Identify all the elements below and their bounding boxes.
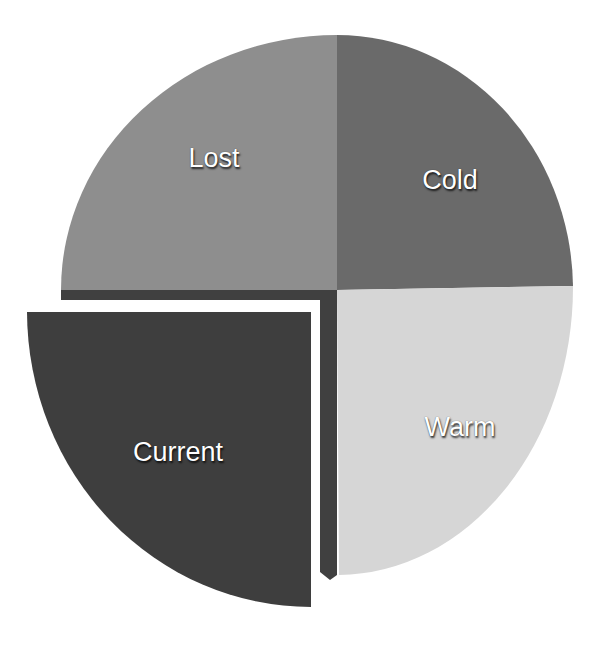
label-warm: Warm xyxy=(425,412,496,443)
label-current: Current xyxy=(133,437,223,468)
slice-cold[interactable] xyxy=(337,35,573,290)
depth-band-warm xyxy=(320,290,337,580)
label-lost: Lost xyxy=(188,143,239,174)
label-cold: Cold xyxy=(422,165,478,196)
pie-chart-svg xyxy=(0,0,610,647)
depth-band-lost xyxy=(61,290,337,300)
